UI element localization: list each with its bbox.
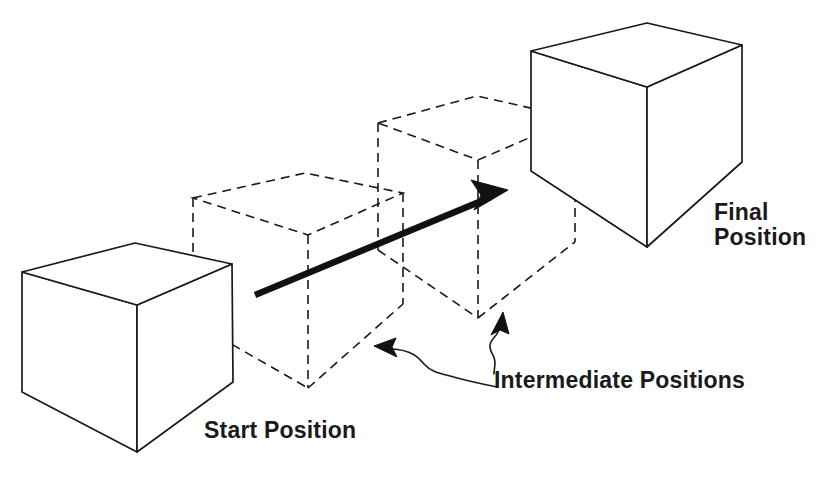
label-final-position-line1: Final	[714, 199, 769, 225]
label-final-position: FinalPosition	[714, 200, 806, 250]
intermediate-cube-2-bottom-left-edge	[378, 250, 478, 318]
leader-line-right	[490, 312, 509, 374]
motion-arrow-shaft	[255, 197, 491, 295]
label-final-position-line2: Position	[714, 224, 806, 250]
final-cube	[531, 23, 742, 247]
cube-translation-diagram	[0, 0, 836, 479]
leader-line-left-curve	[391, 349, 497, 387]
leader-line-left	[374, 338, 497, 387]
motion-arrow	[255, 180, 508, 295]
leader-line-right-arrowhead	[491, 312, 509, 335]
label-start-position: Start Position	[204, 418, 356, 443]
start-cube	[22, 243, 233, 452]
leader-line-left-arrowhead	[374, 338, 397, 357]
figure-canvas: FinalPosition Intermediate Positions Sta…	[0, 0, 836, 479]
intermediate-cube-2-bottom-right-edge	[478, 242, 575, 318]
intermediate-cube-1-top-face	[193, 173, 403, 235]
label-intermediate-positions: Intermediate Positions	[494, 368, 745, 393]
motion-arrow-head	[471, 180, 508, 210]
